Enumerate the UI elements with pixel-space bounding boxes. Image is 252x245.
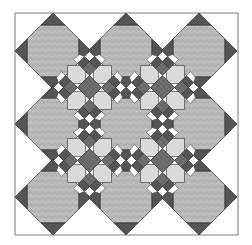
quilt-diagram: Quilt block layout: Snowball octagons wi… — [0, 0, 252, 245]
octagon-blocks — [15, 13, 237, 235]
